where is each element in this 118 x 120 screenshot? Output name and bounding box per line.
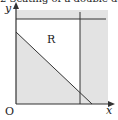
y-axis-label: y	[5, 2, 11, 15]
region-label: R	[47, 33, 55, 46]
feasible-region-diagram	[0, 0, 118, 120]
y-axis-arrow-icon	[13, 2, 19, 9]
origin-label: O	[5, 105, 14, 118]
x-axis-label: x	[106, 104, 112, 117]
